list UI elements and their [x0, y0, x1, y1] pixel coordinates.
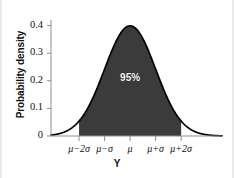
shaded-area-percent-label: 95% — [120, 72, 140, 83]
normal-distribution-figure: Probability density Y 00.10.20.30.4 μ−2σ… — [0, 0, 234, 178]
x-tick-label: μ — [128, 143, 133, 154]
x-axis-label: Y — [0, 158, 234, 169]
x-tick-marks — [79, 136, 181, 141]
y-tick-label: 0 — [11, 129, 43, 140]
y-tick-label: 0.4 — [11, 19, 43, 30]
x-tick-label: μ−σ — [96, 143, 113, 154]
x-tick-label: μ−2σ — [68, 143, 90, 154]
y-tick-label: 0.3 — [11, 46, 43, 57]
x-tick-label: μ+2σ — [170, 143, 192, 154]
y-tick-label: 0.1 — [11, 101, 43, 112]
y-tick-marks — [47, 26, 51, 136]
y-tick-label: 0.2 — [11, 74, 43, 85]
x-tick-label: μ+σ — [147, 143, 164, 154]
